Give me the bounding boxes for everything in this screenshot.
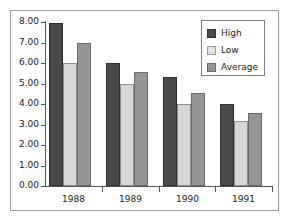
y-axis-tick-label-wrap: 7.00 [3,38,39,47]
x-axis-separator [215,186,216,192]
y-axis-tick-label-wrap: 4.00 [3,99,39,108]
bar-average-1991 [248,113,262,186]
bar-high-1989 [106,63,120,186]
bar-low-1988 [63,63,77,186]
y-axis-tick-label: 2.00 [5,140,39,149]
bar-average-1990 [191,93,205,186]
bar-low-1991 [234,121,248,186]
y-axis-tick-label-wrap: 5.00 [3,79,39,88]
y-axis-tick-label: 1.00 [5,161,39,170]
x-axis-separator [102,186,103,192]
x-axis-label-1990: 1990 [159,194,216,205]
y-axis-tick-label: 8.00 [5,17,39,26]
bar-chart-figure: 8.007.006.005.004.003.002.001.000.00 198… [0,0,291,223]
y-axis-tick-label: 7.00 [5,38,39,47]
bar-high-1991 [220,104,234,186]
legend-item-high: High [207,25,260,41]
chart-legend: High Low Average [201,20,265,76]
bar-low-1990 [177,104,191,186]
y-axis-tick-label-wrap: 8.00 [3,17,39,26]
legend-label-low: Low [221,45,239,55]
y-axis-tick-label: 0.00 [5,181,39,190]
y-axis-tick-label-wrap: 3.00 [3,120,39,129]
legend-swatch-average-icon [207,63,216,72]
x-axis-label-1988: 1988 [45,194,102,205]
y-axis-tick-label-wrap: 1.00 [3,161,39,170]
bar-low-1989 [120,84,134,187]
legend-item-low: Low [207,42,260,58]
y-axis-tick-label-wrap: 6.00 [3,58,39,67]
legend-swatch-low-icon [207,46,216,55]
y-axis-tick-label-wrap: 0.00 [3,181,39,190]
bar-high-1990 [163,77,177,186]
y-axis-tick [41,186,46,187]
y-axis-tick-label-wrap: 2.00 [3,140,39,149]
bar-average-1988 [77,43,91,187]
bar-high-1988 [49,23,63,186]
y-axis-tick-label: 4.00 [5,99,39,108]
x-axis-separator [159,186,160,192]
y-axis-tick-label: 6.00 [5,58,39,67]
legend-label-average: Average [221,62,258,72]
x-axis-separator [272,186,273,192]
x-axis-label-1991: 1991 [215,194,272,205]
legend-label-high: High [221,28,242,38]
y-axis-tick-label: 3.00 [5,120,39,129]
y-axis-tick-label: 5.00 [5,79,39,88]
legend-swatch-high-icon [207,29,216,38]
bar-average-1989 [134,72,148,186]
legend-item-average: Average [207,59,260,75]
x-axis-label-1989: 1989 [102,194,159,205]
